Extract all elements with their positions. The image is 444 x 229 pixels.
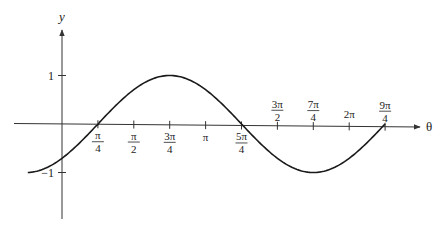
x-tick-label: 3π2: [271, 98, 283, 123]
svg-text:9π: 9π: [380, 99, 392, 111]
svg-text:4: 4: [311, 111, 317, 123]
svg-text:2: 2: [131, 143, 137, 155]
sine-chart: y θ 1−1 π4π23π4π5π43π27π42π9π4: [0, 0, 444, 229]
svg-text:π: π: [131, 130, 137, 142]
y-tick-label: 1: [48, 69, 54, 83]
svg-text:5π: 5π: [236, 130, 248, 142]
y-axis-label: y: [57, 9, 65, 24]
svg-text:2: 2: [275, 111, 281, 123]
x-tick-label: π2: [128, 130, 140, 155]
svg-text:4: 4: [167, 143, 173, 155]
svg-text:4: 4: [239, 143, 245, 155]
x-tick-label: 9π4: [379, 99, 391, 124]
svg-text:3π: 3π: [272, 98, 284, 110]
x-tick-label: 5π4: [236, 130, 248, 155]
svg-text:4: 4: [95, 142, 101, 154]
svg-text:4: 4: [382, 112, 388, 124]
x-tick-label: 2π: [344, 108, 356, 120]
x-tick-label: 7π4: [307, 98, 319, 123]
x-axis-label: θ: [426, 119, 432, 134]
x-axis: [14, 124, 420, 128]
svg-text:π: π: [95, 129, 101, 141]
svg-text:7π: 7π: [308, 98, 320, 110]
x-tick-label: π: [203, 131, 209, 143]
x-tick-label: π4: [92, 129, 104, 154]
svg-text:3π: 3π: [164, 130, 176, 142]
svg-text:π: π: [203, 131, 209, 143]
svg-text:2π: 2π: [344, 108, 356, 120]
x-tick-label: 3π4: [164, 130, 176, 155]
